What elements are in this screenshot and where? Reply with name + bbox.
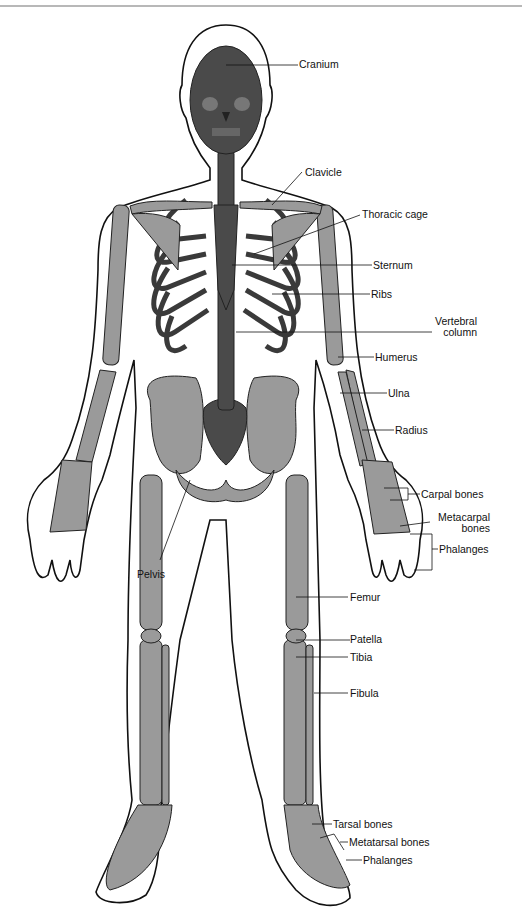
label-clavicle: Clavicle xyxy=(305,167,342,178)
label-ulna: Ulna xyxy=(388,388,410,399)
skull xyxy=(190,46,262,154)
label-carpal-bones: Carpal bones xyxy=(421,489,483,500)
label-radius: Radius xyxy=(395,425,428,436)
label-ribs: Ribs xyxy=(371,289,392,300)
vertebral-column xyxy=(214,150,238,410)
label-patella: Patella xyxy=(350,634,382,645)
label-tibia: Tibia xyxy=(350,652,372,663)
label-sternum: Sternum xyxy=(373,260,413,271)
label-vertebral-column-line2: column xyxy=(430,327,477,338)
skeleton-diagram xyxy=(0,0,522,921)
label-metatarsal-bones: Metatarsal bones xyxy=(349,837,430,848)
label-phalanges-foot: Phalanges xyxy=(363,855,413,866)
label-cranium: Cranium xyxy=(299,59,339,70)
label-phalanges-hand: Phalanges xyxy=(439,544,489,555)
label-metacarpal-line2: bones xyxy=(430,523,490,534)
label-fibula: Fibula xyxy=(350,688,379,699)
label-vertebral-column: Vertebral column xyxy=(430,316,477,338)
label-metacarpal-bones: Metacarpal bones xyxy=(430,512,490,534)
label-humerus: Humerus xyxy=(375,352,418,363)
label-femur: Femur xyxy=(350,592,380,603)
label-thoracic-cage: Thoracic cage xyxy=(362,209,428,220)
label-pelvis: Pelvis xyxy=(137,569,165,580)
label-tarsal-bones: Tarsal bones xyxy=(333,819,393,830)
